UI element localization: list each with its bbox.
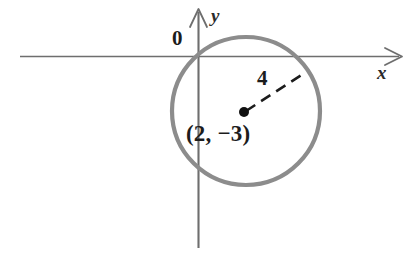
x-axis-label: x	[377, 63, 387, 82]
circle-center-coordinates-label: (2, −3)	[186, 122, 250, 145]
circle-diagram-figure: y x 0 4 (2, −3)	[0, 0, 415, 253]
origin-label: 0	[172, 28, 183, 49]
radius-length-label: 4	[257, 68, 268, 89]
center-point-dot	[239, 107, 249, 117]
y-axis-label: y	[211, 6, 219, 25]
radius-dashed-line	[246, 72, 306, 111]
